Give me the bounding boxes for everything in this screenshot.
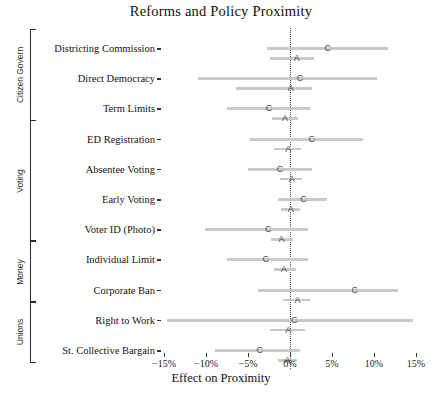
- point-estimate-marker-c: C: [265, 225, 272, 234]
- x-axis-tick: [164, 353, 165, 357]
- row-tick-mark: [157, 78, 161, 80]
- x-axis-tick: [248, 353, 249, 357]
- row-tick-mark: [157, 320, 161, 322]
- row-label: Term Limits: [15, 104, 155, 115]
- point-estimate-marker-a: A: [281, 265, 287, 274]
- x-axis-tick: [416, 353, 417, 357]
- x-axis-tick-label: 15%: [407, 358, 425, 369]
- row-label: St. Collective Bargain: [15, 346, 155, 357]
- row-label: Direct Democracy: [15, 74, 155, 85]
- row-label: Early Voting: [15, 195, 155, 206]
- point-estimate-marker-c: C: [262, 255, 269, 264]
- x-axis-tick-label: 5%: [325, 358, 338, 369]
- x-axis-tick-label: −15%: [152, 358, 176, 369]
- point-estimate-marker-a: A: [288, 205, 294, 214]
- point-estimate-marker-a: A: [295, 295, 301, 304]
- x-axis-title: Effect on Proximity: [0, 371, 442, 386]
- x-axis-tick-label: −5%: [239, 358, 258, 369]
- point-estimate-marker-c: C: [351, 285, 358, 294]
- row-tick-mark: [157, 139, 161, 141]
- point-estimate-marker-a: A: [288, 84, 294, 93]
- group-label: Unions: [15, 319, 25, 345]
- row-label: Voter ID (Photo): [15, 225, 155, 236]
- row-tick-mark: [157, 259, 161, 261]
- row-tick-mark: [157, 48, 161, 50]
- confidence-interval-bar: [258, 289, 398, 292]
- row-tick-mark: [157, 350, 161, 352]
- point-estimate-marker-c: C: [325, 44, 332, 53]
- group-bracket: [30, 240, 36, 302]
- point-estimate-marker-c: C: [300, 195, 307, 204]
- x-axis-tick: [290, 353, 291, 357]
- point-estimate-marker-c: C: [291, 315, 298, 324]
- x-axis-tick: [206, 353, 207, 357]
- x-axis-tick: [374, 353, 375, 357]
- x-axis-tick-label: 0%: [283, 358, 296, 369]
- point-estimate-marker-c: C: [266, 104, 273, 113]
- chart-figure: Reforms and Policy Proximity Districting…: [0, 0, 442, 400]
- point-estimate-marker-a: A: [289, 174, 295, 183]
- row-label: Individual Limit: [15, 255, 155, 266]
- confidence-interval-bar: [250, 138, 363, 141]
- row-label: Absentee Voting: [15, 165, 155, 176]
- group-label: Money: [15, 259, 25, 285]
- plot-area: Districting CommissionCADirect Democracy…: [0, 0, 442, 400]
- row-label: Right to Work: [15, 316, 155, 327]
- point-estimate-marker-a: A: [285, 325, 291, 334]
- x-axis-tick-label: 10%: [365, 358, 383, 369]
- confidence-interval-bar: [236, 87, 312, 90]
- point-estimate-marker-c: C: [297, 74, 304, 83]
- group-bracket: [30, 120, 36, 243]
- point-estimate-marker-a: A: [285, 144, 291, 153]
- x-axis-tick: [332, 353, 333, 357]
- row-label: Districting Commission: [15, 44, 155, 55]
- group-label: Voting: [15, 169, 25, 193]
- point-estimate-marker-c: C: [257, 346, 264, 355]
- confidence-interval-bar: [198, 77, 378, 80]
- group-bracket: [30, 301, 36, 363]
- row-tick-mark: [157, 290, 161, 292]
- point-estimate-marker-a: A: [279, 235, 285, 244]
- point-estimate-marker-c: C: [277, 164, 284, 173]
- row-tick-mark: [157, 229, 161, 231]
- point-estimate-marker-c: C: [309, 134, 316, 143]
- row-tick-mark: [157, 169, 161, 171]
- group-bracket: [30, 29, 36, 121]
- row-label: ED Registration: [15, 135, 155, 146]
- confidence-interval-bar: [205, 228, 307, 231]
- x-axis-tick-label: −10%: [194, 358, 218, 369]
- row-tick-mark: [157, 108, 161, 110]
- group-label: Citizen Govern: [15, 47, 25, 103]
- point-estimate-marker-a: A: [294, 54, 300, 63]
- row-label: Corporate Ban: [15, 286, 155, 297]
- confidence-interval-bar: [270, 57, 315, 60]
- row-tick-mark: [157, 199, 161, 201]
- point-estimate-marker-a: A: [282, 114, 288, 123]
